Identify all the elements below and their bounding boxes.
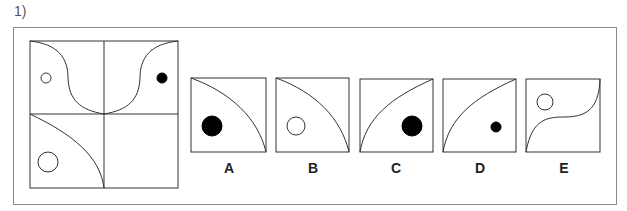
option-c-figure[interactable] <box>360 79 433 152</box>
main-grid <box>30 41 178 188</box>
option-d-figure[interactable] <box>443 79 516 152</box>
puzzle-figures <box>0 0 627 211</box>
option-c-label[interactable]: C <box>381 160 411 176</box>
option-d-label[interactable]: D <box>465 160 495 176</box>
option-a-label[interactable]: A <box>214 160 244 176</box>
option-e-label[interactable]: E <box>549 160 579 176</box>
option-b-label[interactable]: B <box>298 160 328 176</box>
option-e-figure[interactable] <box>526 79 600 152</box>
filled-dot <box>157 73 167 83</box>
option-b-figure[interactable] <box>276 78 349 152</box>
option-a-figure[interactable] <box>191 78 266 152</box>
